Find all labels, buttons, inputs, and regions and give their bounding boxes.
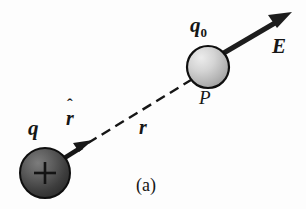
positive-charge-sphere xyxy=(20,148,70,198)
field-vector-label: E xyxy=(272,36,286,57)
physics-figure-electric-field: q ˆr r q0 P E (a) xyxy=(0,0,306,209)
figure-caption: (a) xyxy=(136,176,156,194)
hat-accent: ˆ xyxy=(67,96,73,113)
point-label: P xyxy=(199,88,211,107)
distance-label: r xyxy=(139,117,147,137)
test-charge-label: q0 xyxy=(190,15,207,39)
test-charge-letter: q xyxy=(190,13,201,37)
test-charge-subscript: 0 xyxy=(201,25,208,40)
test-charge-sphere xyxy=(187,46,229,88)
source-charge-label: q xyxy=(28,118,39,139)
unit-vector-label: ˆr xyxy=(66,108,74,128)
